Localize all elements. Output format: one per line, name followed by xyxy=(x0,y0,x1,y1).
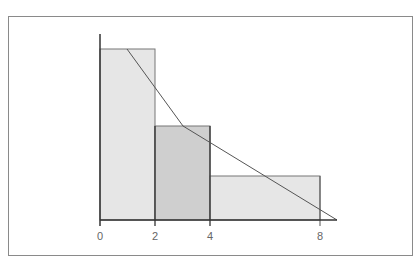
tick-label-2: 2 xyxy=(152,230,158,242)
x-tick-labels: 0 2 4 8 xyxy=(97,230,323,242)
tick-label-8: 8 xyxy=(317,230,323,242)
histogram-chart: 0 2 4 8 xyxy=(0,0,417,266)
tick-label-0: 0 xyxy=(97,230,103,242)
tick-label-4: 4 xyxy=(207,230,213,242)
bar-0-2 xyxy=(100,49,155,220)
bar-2-4 xyxy=(155,126,210,220)
bar-4-8 xyxy=(210,176,320,220)
